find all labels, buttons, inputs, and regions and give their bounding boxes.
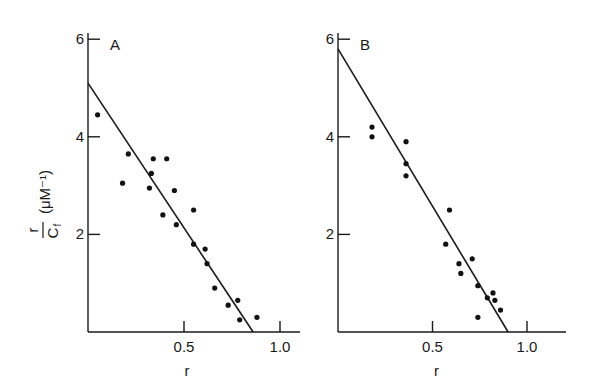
chart-canvas: r C f (μM⁻¹) 2460.51.0rA 2460.51.0rB (0, 0, 601, 386)
data-point (149, 171, 154, 176)
data-point (237, 317, 242, 322)
scatchard-figure: r C f (μM⁻¹) 2460.51.0rA 2460.51.0rB (0, 0, 601, 386)
panel-label: A (110, 36, 120, 53)
data-point (126, 151, 131, 156)
data-point (475, 315, 480, 320)
y-title-units: (μM⁻¹) (36, 170, 53, 214)
data-point (470, 256, 475, 261)
data-point (191, 242, 196, 247)
y-axis-title: r C f (μM⁻¹) (24, 170, 63, 238)
x-axis-title: r (434, 362, 439, 379)
y-tick-label: 2 (326, 225, 334, 242)
x-tick-label: 0.5 (422, 338, 443, 355)
axes: 2460.51.0r (76, 30, 300, 379)
data-point (456, 261, 461, 266)
data-point (164, 156, 169, 161)
data-point (147, 185, 152, 190)
y-tick-label: 2 (76, 225, 84, 242)
x-tick-label: 1.0 (517, 338, 538, 355)
axes: 2460.51.0r (326, 30, 566, 379)
data-point (151, 156, 156, 161)
data-point (174, 222, 179, 227)
data-point (458, 271, 463, 276)
panel-b: 2460.51.0rB (326, 30, 566, 379)
data-point (235, 298, 240, 303)
data-point (492, 298, 497, 303)
data-point (490, 290, 495, 295)
panel-label: B (360, 36, 370, 53)
x-axis-title: r (185, 362, 190, 379)
data-point (403, 161, 408, 166)
y-title-subscript: f (52, 223, 63, 226)
data-point (95, 112, 100, 117)
data-point (226, 303, 231, 308)
regression-line (338, 49, 508, 332)
panel-a: 2460.51.0rA (76, 30, 300, 379)
data-point (475, 283, 480, 288)
data-point (485, 295, 490, 300)
y-title-denominator: C (44, 227, 61, 238)
data-point (120, 181, 125, 186)
data-point (254, 315, 259, 320)
data-point (191, 207, 196, 212)
data-point (443, 242, 448, 247)
regression-line (88, 83, 253, 332)
data-point (498, 307, 503, 312)
data-point (160, 212, 165, 217)
data-point (403, 173, 408, 178)
data-point (212, 285, 217, 290)
y-tick-label: 6 (76, 30, 84, 47)
y-tick-label: 4 (76, 128, 84, 145)
data-point (204, 261, 209, 266)
data-point (172, 188, 177, 193)
y-title-numerator: r (24, 228, 41, 233)
data-point (447, 207, 452, 212)
y-tick-label: 4 (326, 128, 334, 145)
data-point (203, 246, 208, 251)
data-point (369, 134, 374, 139)
x-tick-label: 0.5 (174, 338, 195, 355)
y-tick-label: 6 (326, 30, 334, 47)
data-point (403, 139, 408, 144)
data-point (369, 124, 374, 129)
x-tick-label: 1.0 (270, 338, 291, 355)
